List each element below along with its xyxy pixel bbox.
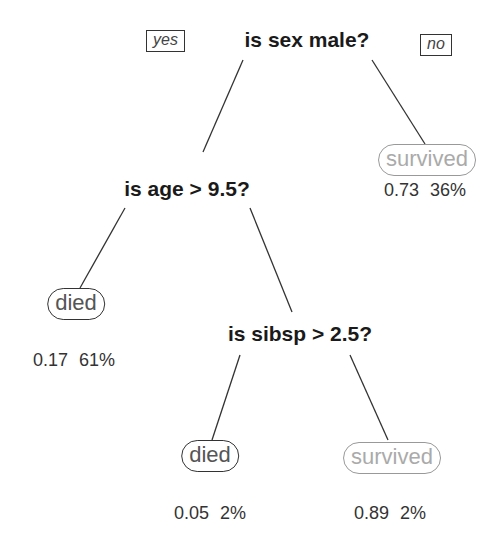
yes-label: yes <box>146 30 185 52</box>
edge-root-survived <box>372 60 425 144</box>
leaf-survived-boy: survived <box>343 442 441 474</box>
root-question: is sex male? <box>245 28 370 52</box>
leaf-survived-female-stats: 0.73 36% <box>384 180 466 201</box>
age-question: is age > 9.5? <box>124 177 250 201</box>
no-label: no <box>420 34 452 56</box>
edge-age-died <box>80 208 125 288</box>
leaf-survived-female: survived <box>378 144 476 176</box>
leaf-survived-boy-stats: 0.89 2% <box>354 503 426 524</box>
leaf-died-adult-male: died <box>47 288 105 320</box>
edge-age-sibsp <box>250 208 292 312</box>
edge-sibsp-died <box>212 355 240 440</box>
leaf-died-boy-stats: 0.05 2% <box>174 503 246 524</box>
edge-root-age <box>203 60 243 152</box>
leaf-died-adult-male-stats: 0.17 61% <box>33 350 115 371</box>
leaf-died-boy: died <box>181 440 239 472</box>
sibsp-question: is sibsp > 2.5? <box>228 322 372 346</box>
edge-sibsp-survived <box>350 355 388 440</box>
